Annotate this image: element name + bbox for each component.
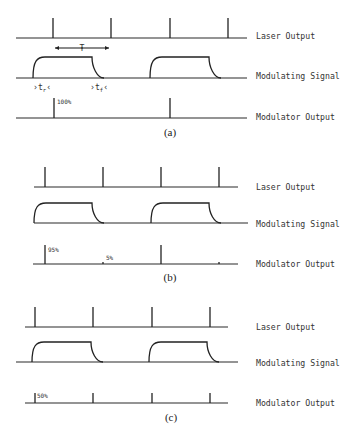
- panel-caption: (c): [165, 411, 178, 424]
- arrowhead-right-icon: [105, 46, 109, 50]
- row-label-laser: Laser Output: [256, 182, 315, 192]
- arrowhead-left-icon: [55, 46, 59, 50]
- modulation-timing-diagram: 100%Laser OutputModulating SignalModulat…: [0, 0, 344, 435]
- row-label-laser: Laser Output: [256, 322, 315, 332]
- panel-b: 95%5%Laser OutputModulating SignalModula…: [33, 167, 340, 284]
- modulating-pulse: [32, 342, 103, 362]
- period-label: T: [80, 43, 85, 53]
- modulating-pulse: [151, 203, 221, 223]
- transmission-percent-label: 5%: [106, 254, 114, 261]
- row-label-laser: Laser Output: [256, 31, 315, 41]
- modulating-pulse: [34, 203, 104, 223]
- panel-a: 100%Laser OutputModulating SignalModulat…: [16, 18, 340, 139]
- row-label-signal: Modulating Signal: [256, 71, 340, 81]
- row-label-modulator: Modulator Output: [256, 398, 335, 408]
- row-label-signal: Modulating Signal: [256, 358, 340, 368]
- panel-c: 50%Laser OutputModulating SignalModulato…: [16, 307, 340, 424]
- row-label-signal: Modulating Signal: [256, 219, 340, 229]
- transmission-percent-label: 50%: [37, 392, 48, 399]
- panel-caption: (b): [164, 271, 177, 284]
- row-label-modulator: Modulator Output: [256, 259, 335, 269]
- modulating-pulse: [33, 57, 104, 78]
- row-label-modulator: Modulator Output: [256, 112, 335, 122]
- fall-time-label: ›tf‹: [90, 82, 108, 93]
- diagram-panels: 100%Laser OutputModulating SignalModulat…: [16, 18, 340, 424]
- transmission-percent-label: 95%: [48, 246, 59, 253]
- modulating-pulse: [149, 342, 219, 362]
- modulating-pulse: [150, 57, 221, 78]
- panel-caption: (a): [164, 126, 177, 139]
- transmission-percent-label: 100%: [57, 98, 72, 105]
- rise-time-label: ›tr‹: [33, 82, 51, 93]
